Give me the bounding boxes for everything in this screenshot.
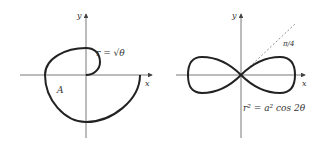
y-axis-label: y	[76, 11, 82, 20]
spiral-equation: r = √θ	[96, 48, 125, 58]
angle-label: π/4	[282, 40, 294, 48]
x-axis-label: x	[145, 79, 150, 88]
lemniscate-figure: y x π/4 r² = a² cos 2θ	[176, 11, 307, 138]
x-axis-label: x	[302, 79, 307, 88]
diagram-canvas: y x r = √θ A y x π/4 r² = a² cos 2θ	[0, 0, 317, 145]
lemniscate-equation: r² = a² cos 2θ	[243, 103, 306, 113]
y-axis-label: y	[231, 11, 237, 20]
region-label-A: A	[56, 85, 64, 95]
spiral-figure: y x r = √θ A	[20, 11, 152, 138]
